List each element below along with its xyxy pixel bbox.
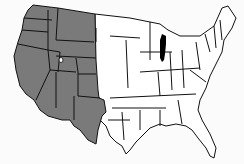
us-map-svg [0,0,244,164]
us-map [0,0,244,164]
great-salt-lake-marker [59,58,63,63]
eastern-states [95,6,236,158]
